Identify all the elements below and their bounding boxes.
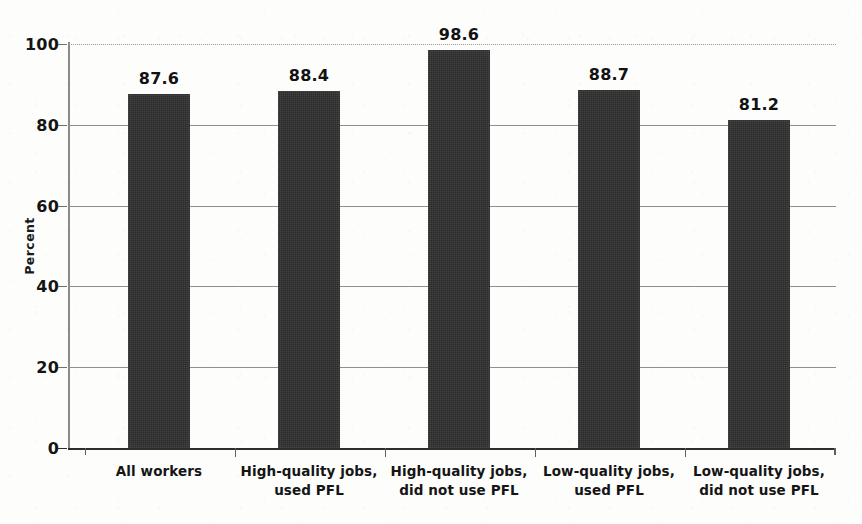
bar-value-label: 87.6 [99,69,219,88]
x-tick-mark [685,448,686,457]
plot-area: 87.688.498.688.781.2 [68,44,836,448]
bar [128,94,190,448]
x-tick-mark [385,448,386,457]
x-category-label: High-quality jobs, used PFL [229,462,389,500]
y-tick-label-80: 80 [13,115,59,134]
y-tick-mark-60 [58,206,67,207]
y-tick-mark-0 [58,448,67,449]
chart-figure: Percent 100806040200 87.688.498.688.781.… [0,0,862,524]
y-tick-label-0: 0 [13,439,59,458]
x-tick-mark [835,448,836,455]
x-category-label: Low-quality jobs, did not use PFL [679,462,839,500]
y-tick-label-40: 40 [13,277,59,296]
y-tick-label-100: 100 [13,35,59,54]
x-category-label: High-quality jobs, did not use PFL [379,462,539,500]
x-category-label: Low-quality jobs, used PFL [529,462,689,500]
y-tick-mark-80 [58,125,67,126]
bar-value-label: 88.7 [549,65,669,84]
bar [428,50,490,448]
bar [278,91,340,448]
y-tick-mark-40 [58,286,67,287]
gridline-0 [68,448,836,450]
x-axis-end-tick [834,448,835,455]
bar [578,90,640,448]
x-tick-mark [235,448,236,457]
x-tick-mark [85,448,86,455]
y-tick-label-20: 20 [13,358,59,377]
y-tick-label-60: 60 [13,196,59,215]
y-tick-mark-20 [58,367,67,368]
y-tick-mark-100 [58,44,67,45]
bar-value-label: 98.6 [399,25,519,44]
gridline-100 [68,44,836,46]
bar [728,120,790,448]
bar-value-label: 81.2 [699,95,819,114]
bar-value-label: 88.4 [249,66,369,85]
x-category-label: All workers [79,462,239,481]
x-tick-mark [535,448,536,457]
